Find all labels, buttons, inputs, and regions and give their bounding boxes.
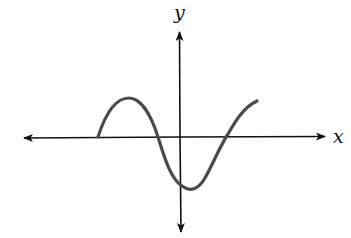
x-axis-label: x xyxy=(333,125,344,147)
x-axis-positive-arrow-icon xyxy=(180,137,325,138)
x-axis xyxy=(24,137,325,139)
function-curve xyxy=(98,98,257,189)
y-axis-positive-arrow-icon xyxy=(180,32,181,137)
y-axis xyxy=(180,32,182,232)
function-graph: x y xyxy=(0,0,351,238)
y-axis-label: y xyxy=(173,1,185,23)
